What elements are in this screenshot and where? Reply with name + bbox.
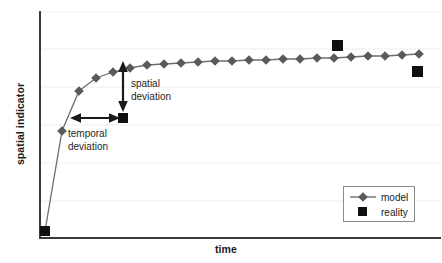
model-point: [159, 59, 169, 69]
reality-point: [332, 40, 343, 51]
model-point: [312, 53, 322, 63]
model-point: [329, 53, 339, 63]
spatial-deviation-line2: deviation: [131, 91, 171, 104]
model-point: [210, 56, 220, 66]
temporal-deviation-arrow: [70, 113, 120, 123]
model-point: [244, 55, 254, 65]
model-point: [57, 126, 67, 136]
temporal-deviation-line1: temporal: [68, 128, 108, 141]
chart-container: spatial indicator time spatial deviation…: [0, 0, 442, 263]
model-point: [414, 49, 424, 59]
model-point: [346, 52, 356, 62]
reality-point: [412, 66, 423, 77]
temporal-deviation-label: temporal deviation: [68, 128, 108, 153]
temporal-deviation-line2: deviation: [68, 141, 108, 154]
model-point: [278, 54, 288, 64]
model-point: [142, 60, 152, 70]
model-point: [397, 50, 407, 60]
legend-reality-marker: [358, 207, 367, 216]
chart-plot-area: [0, 0, 442, 263]
legend-item-model: model: [381, 192, 408, 203]
model-point: [193, 57, 203, 67]
reality-point: [40, 226, 50, 236]
model-point: [380, 51, 390, 61]
spatial-deviation-label: spatial deviation: [131, 78, 171, 103]
spatial-deviation-line1: spatial: [131, 78, 171, 91]
model-point: [295, 54, 305, 64]
model-point: [261, 55, 271, 65]
x-axis-label: time: [196, 243, 256, 255]
model-point: [108, 67, 118, 77]
model-point: [227, 56, 237, 66]
legend-item-reality: reality: [381, 207, 408, 218]
gridlines: [40, 12, 440, 201]
model-point: [176, 58, 186, 68]
model-point: [363, 51, 373, 61]
y-axis-label: spatial indicator: [14, 59, 26, 189]
